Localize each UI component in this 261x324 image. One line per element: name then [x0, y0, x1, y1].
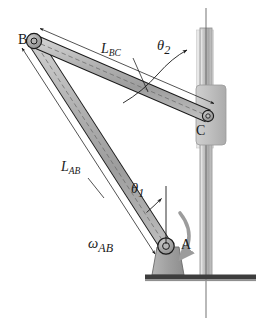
label-omega-ab-subscript: AB: [98, 241, 113, 255]
label-link-bc-base: L: [101, 41, 109, 56]
label-theta-2-subscript: 2: [164, 43, 170, 57]
label-theta-1-subscript: 1: [138, 186, 144, 200]
label-link-bc: LBC: [101, 42, 121, 56]
label-joint-a: A: [181, 238, 191, 252]
theta1-arc: [147, 199, 162, 213]
leader-line-lab: [88, 178, 104, 198]
label-joint-c: C: [196, 124, 205, 138]
guide-rod-group: [197, 28, 214, 277]
label-link-bc-subscript: BC: [109, 48, 121, 58]
ground-bar: [145, 275, 256, 280]
pin-joint-c: [202, 110, 213, 121]
label-omega-ab: ωAB: [88, 236, 113, 254]
label-link-ab: LAB: [61, 160, 80, 174]
linkage-diagram-figure: B C A LBC LAB θ2 θ1 ωAB: [0, 0, 261, 324]
label-link-ab-subscript: AB: [69, 166, 81, 176]
label-link-ab-base: L: [61, 159, 69, 174]
ground-bar-shadow: [145, 280, 256, 282]
label-theta-2: θ2: [157, 38, 170, 56]
pin-joint-b: [26, 33, 41, 48]
diagram-canvas: [0, 0, 261, 324]
label-omega-ab-base: ω: [88, 235, 98, 251]
label-joint-b: B: [18, 33, 27, 47]
label-theta-1: θ1: [131, 181, 144, 199]
